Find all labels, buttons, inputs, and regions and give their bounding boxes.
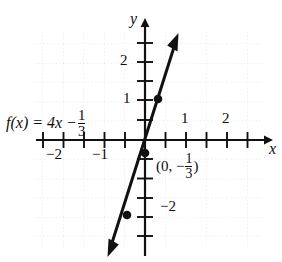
point-marker-intercept <box>141 149 150 158</box>
point-marker-lower <box>123 211 132 220</box>
x-tick-label-pos2: 2 <box>222 110 230 127</box>
x-axis-label: x <box>269 141 276 157</box>
function-fraction-numerator: 1 <box>78 108 85 123</box>
x-tick-label-neg1: −1 <box>92 146 108 163</box>
function-fraction: 13 <box>77 108 86 139</box>
y-axis-label: y <box>130 11 137 27</box>
function-equation-text: f(x) = 4x − <box>6 114 77 131</box>
y-tick-label-neg2: −2 <box>160 198 176 215</box>
x-tick-label-neg2: −2 <box>46 146 62 163</box>
y-tick-label-pos2: 2 <box>120 52 128 69</box>
point-coordinate-label: (0, −13) <box>156 152 198 181</box>
function-fraction-denominator: 3 <box>78 123 85 139</box>
x-tick-label-pos1: 1 <box>181 110 189 127</box>
point-fraction-numerator: 1 <box>185 152 192 166</box>
point-fraction-denominator: 3 <box>185 166 192 181</box>
point-marker-upper <box>154 95 163 104</box>
point-label-prefix: (0, − <box>156 158 184 174</box>
y-tick-label-pos1: 1 <box>123 90 131 107</box>
graph-figure: y x f(x) = 4x −13 (0, −13) −2 −1 1 2 1 2… <box>0 0 282 262</box>
point-label-suffix: ) <box>193 158 198 174</box>
y-axis-arrowhead <box>141 18 150 27</box>
function-equation-label: f(x) = 4x −13 <box>6 108 86 139</box>
